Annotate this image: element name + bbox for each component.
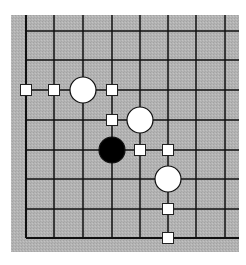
- black-stone-icon: [99, 137, 125, 163]
- white-stone-icon: [70, 77, 96, 103]
- white-stone-icon: [127, 107, 153, 133]
- square-marker-icon: [163, 204, 174, 215]
- board-background: [11, 15, 239, 252]
- square-marker-icon: [107, 85, 118, 96]
- go-board-diagram: [0, 0, 246, 265]
- square-marker-icon: [21, 85, 32, 96]
- square-marker-icon: [163, 145, 174, 156]
- square-marker-icon: [135, 145, 146, 156]
- white-stone-icon: [155, 166, 181, 192]
- square-marker-icon: [163, 233, 174, 244]
- square-marker-icon: [107, 115, 118, 126]
- square-marker-icon: [49, 85, 60, 96]
